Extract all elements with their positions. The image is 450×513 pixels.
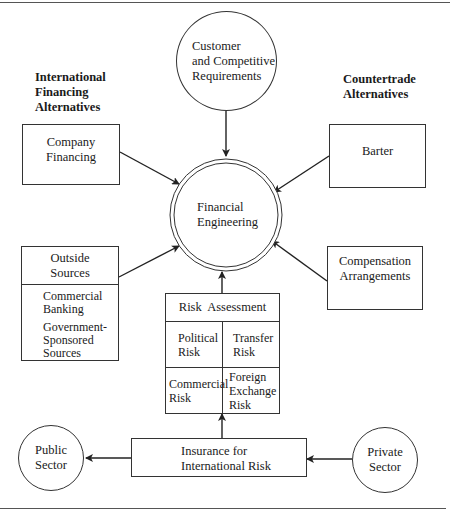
cell-political-risk: Political Risk xyxy=(166,322,223,368)
node-barter: Barter xyxy=(329,124,426,188)
node-outside-sources: Outside Sources Commercial Banking Gover… xyxy=(21,246,119,361)
node-customer-requirements: Customer and Competitive Requirements xyxy=(176,11,277,111)
arrow-barter-to-fe xyxy=(274,156,329,192)
node-risk-assessment: Risk Assessment Political Risk Transfer … xyxy=(165,293,280,414)
node-public-sector: Public Sector xyxy=(18,425,84,491)
cell-foreign-exchange-risk: Foreign Exchange Risk xyxy=(223,368,279,413)
node-private-sector: Private Sector xyxy=(352,427,418,493)
risk-assessment-title: Risk Assessment xyxy=(166,294,279,322)
heading-international-financing: International Financing Alternatives xyxy=(35,70,106,115)
cell-commercial-risk: Commercial Risk xyxy=(166,368,223,413)
list-item-government-sponsored: Government- Sponsored Sources xyxy=(43,321,118,360)
node-financial-engineering: Financial Engineering xyxy=(176,195,276,235)
arrow-company-to-fe xyxy=(120,152,179,184)
node-compensation-arrangements: Compensation Arrangements xyxy=(327,246,423,310)
node-company-financing: Company Financing xyxy=(22,124,120,185)
arrow-outside-to-fe xyxy=(119,246,179,277)
arrow-compensation-to-fe xyxy=(272,241,327,281)
outside-sources-list: Commercial Banking Government- Sponsored… xyxy=(22,285,118,360)
node-insurance-international-risk: Insurance for International Risk xyxy=(131,438,307,477)
cell-transfer-risk: Transfer Risk xyxy=(223,322,279,368)
list-item-commercial-banking: Commercial Banking xyxy=(43,290,118,316)
heading-countertrade: Countertrade Alternatives xyxy=(343,72,416,102)
outside-sources-title: Outside Sources xyxy=(22,247,118,285)
